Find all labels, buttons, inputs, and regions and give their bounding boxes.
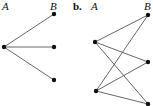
graph-node-left [94, 89, 98, 93]
panel-b-label-b: B [144, 0, 151, 12]
graph-edge [4, 14, 54, 47]
graph-node-left [2, 45, 6, 49]
bipartite-graphs: A B b. A B [0, 0, 153, 106]
graph-node-right [52, 12, 56, 16]
graph-edge [95, 42, 148, 104]
panel-b-edges [95, 15, 148, 104]
graph-node-right [52, 45, 56, 49]
panel-b-tag: b. [73, 0, 82, 12]
graph-edge [96, 62, 148, 91]
graph-edge [4, 47, 54, 80]
graph-edge [96, 15, 148, 91]
panel-a-label-b: B [50, 0, 57, 12]
panel-a-label-a: A [1, 0, 9, 12]
graph-node-right [52, 78, 56, 82]
graph-node-right [146, 60, 150, 64]
graph-edge [95, 42, 148, 62]
graph-edge [96, 91, 148, 104]
panel-a: A B [1, 0, 57, 82]
panel-b-label-a: A [90, 0, 98, 12]
graph-edge [95, 15, 148, 42]
panel-b: b. A B [73, 0, 151, 106]
graph-node-right [146, 13, 150, 17]
graph-node-right [146, 102, 150, 106]
panel-a-edges [4, 14, 54, 80]
graph-node-left [93, 40, 97, 44]
